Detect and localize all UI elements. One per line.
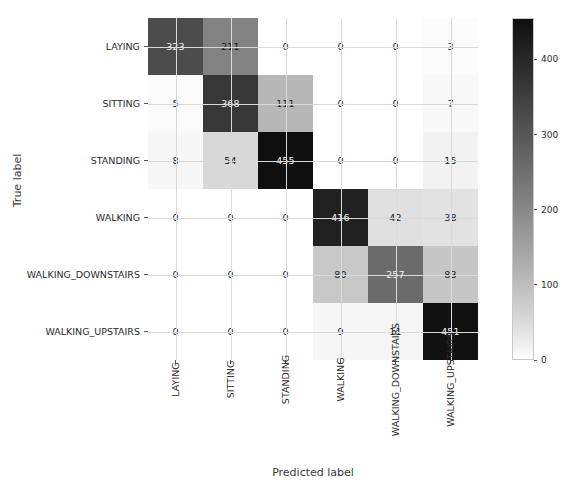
heatmap-cell-value: 0: [337, 42, 343, 52]
y-tick-label: WALKING: [96, 212, 144, 223]
y-tick-label: STANDING: [91, 155, 144, 166]
x-tick-label-wrap: WALKING_UPSTAIRS: [444, 368, 458, 464]
heatmap-cell: 83: [423, 246, 478, 303]
heatmap-cell: 54: [203, 132, 258, 189]
y-axis-tick-labels: LAYINGSITTINGSTANDINGWALKINGWALKING_DOWN…: [0, 18, 148, 360]
heatmap-cell: 0: [368, 75, 423, 132]
x-tick-label-wrap: LAYING: [169, 368, 183, 464]
x-tick-label: SITTING: [225, 360, 236, 398]
heatmap-cell: 0: [258, 189, 313, 246]
heatmap-cell: 0: [203, 189, 258, 246]
y-tick-label: SITTING: [102, 98, 144, 109]
heatmap-cell: 211: [203, 18, 258, 75]
heatmap-cell-value: 80: [334, 270, 347, 280]
x-tick-label-wrap: WALKING: [334, 368, 348, 464]
heatmap-cell: 0: [368, 18, 423, 75]
heatmap-cell-value: 0: [227, 270, 233, 280]
heatmap-cell-value: 416: [331, 213, 350, 223]
colorbar-tick-labels: 0100200300400: [534, 18, 572, 360]
heatmap-cell: 0: [313, 132, 368, 189]
heatmap-cell: 0: [203, 303, 258, 360]
heatmap-cell-value: 42: [389, 213, 402, 223]
heatmap-cell: 0: [313, 18, 368, 75]
y-tick-label: LAYING: [106, 41, 144, 52]
heatmap-cell-value: 3: [447, 42, 453, 52]
heatmap-cell: 0: [258, 303, 313, 360]
heatmap-cell: 455: [258, 132, 313, 189]
heatmap-cell-value: 0: [282, 42, 288, 52]
heatmap-cell-value: 0: [172, 213, 178, 223]
x-tick-label: WALKING: [335, 357, 346, 401]
heatmap-cell: 7: [423, 75, 478, 132]
confusion-matrix-figure: True label LAYINGSITTINGSTANDINGWALKINGW…: [0, 0, 572, 493]
heatmap-cell: 42: [368, 189, 423, 246]
heatmap-cell-value: 111: [276, 99, 295, 109]
heatmap-cell: 257: [368, 246, 423, 303]
colorbar-tick-label: 200: [537, 205, 558, 215]
heatmap-cell: 3: [423, 18, 478, 75]
heatmap-cell-value: 257: [386, 270, 405, 280]
heatmap-cell-value: 0: [337, 156, 343, 166]
heatmap-cell-value: 0: [227, 327, 233, 337]
heatmap-cell: 15: [423, 132, 478, 189]
colorbar-tick-label: 100: [537, 280, 558, 290]
heatmap-cell-value: 455: [276, 156, 295, 166]
heatmap-cell-value: 0: [392, 156, 398, 166]
heatmap-cell: 0: [148, 189, 203, 246]
heatmap-cell-value: 38: [444, 213, 457, 223]
heatmap-cell: 111: [258, 75, 313, 132]
heatmap-cell-value: 0: [227, 213, 233, 223]
heatmap-cell-value: 83: [444, 270, 457, 280]
heatmap-cell: 416: [313, 189, 368, 246]
colorbar-gradient: [513, 19, 533, 359]
heatmap-cell: 368: [203, 75, 258, 132]
heatmap-cell-grid: 3232110003536811100785445500150004164238…: [148, 18, 478, 360]
heatmap-cell: 8: [148, 132, 203, 189]
heatmap-cell: 0: [368, 132, 423, 189]
heatmap-cell: 5: [148, 75, 203, 132]
heatmap-cell-value: 7: [447, 99, 453, 109]
heatmap-cell-value: 368: [221, 99, 240, 109]
x-tick-label: WALKING_UPSTAIRS: [445, 332, 456, 427]
heatmap-cell-value: 323: [166, 42, 185, 52]
heatmap-cell-value: 0: [282, 270, 288, 280]
heatmap-cell-value: 54: [224, 156, 237, 166]
heatmap-cell: 0: [203, 246, 258, 303]
heatmap-cell-value: 0: [172, 270, 178, 280]
x-tick-label: STANDING: [280, 354, 291, 403]
y-tick-label: WALKING_UPSTAIRS: [45, 326, 144, 337]
heatmap-cell-value: 9: [337, 327, 343, 337]
heatmap-cell-value: 0: [282, 327, 288, 337]
heatmap-cell: 0: [258, 246, 313, 303]
colorbar: [512, 18, 534, 360]
x-axis-tick-labels: LAYINGSITTINGSTANDINGWALKINGWALKING_DOWN…: [148, 360, 478, 466]
y-tick-label: WALKING_DOWNSTAIRS: [27, 269, 144, 280]
colorbar-tick-label: 300: [537, 130, 558, 140]
x-tick-label-wrap: STANDING: [279, 368, 293, 464]
colorbar-tick-label: 400: [537, 54, 558, 64]
x-tick-label-wrap: WALKING_DOWNSTAIRS: [389, 368, 403, 464]
x-axis-title: Predicted label: [148, 466, 478, 479]
heatmap-cell: 0: [258, 18, 313, 75]
heatmap-cell: 38: [423, 189, 478, 246]
heatmap-cell: 80: [313, 246, 368, 303]
colorbar-tick-label: 0: [537, 355, 547, 365]
heatmap-cell-value: 8: [172, 156, 178, 166]
x-tick-label: LAYING: [170, 362, 181, 396]
x-tick-label: WALKING_DOWNSTAIRS: [390, 322, 401, 435]
x-tick-label-wrap: SITTING: [224, 368, 238, 464]
heatmap-cell-value: 15: [444, 156, 457, 166]
heatmap-cell: 0: [148, 246, 203, 303]
heatmap-cell: 9: [313, 303, 368, 360]
heatmap-plot-area: 3232110003536811100785445500150004164238…: [148, 18, 478, 360]
heatmap-cell-value: 0: [392, 42, 398, 52]
heatmap-cell: 0: [313, 75, 368, 132]
heatmap-cell: 323: [148, 18, 203, 75]
heatmap-cell-value: 0: [172, 327, 178, 337]
heatmap-cell-value: 5: [172, 99, 178, 109]
heatmap-cell-value: 0: [337, 99, 343, 109]
heatmap-cell-value: 0: [282, 213, 288, 223]
heatmap-cell-value: 211: [221, 42, 240, 52]
heatmap-cell: 0: [148, 303, 203, 360]
heatmap-cell-value: 0: [392, 99, 398, 109]
